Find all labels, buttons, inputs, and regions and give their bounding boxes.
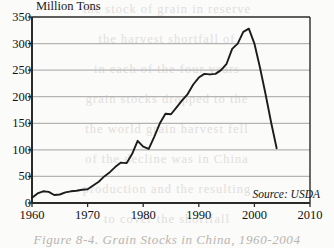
x-tick-label: 2010 [298, 208, 323, 223]
x-tick-label: 1990 [186, 208, 211, 223]
data-series-line [32, 29, 277, 198]
y-tick-label: 50 [1, 169, 31, 184]
y-tick-label: 200 [1, 89, 31, 104]
x-tick-label: 1960 [20, 208, 45, 223]
y-tick-label: 350 [1, 10, 31, 25]
y-tick-label: 300 [1, 36, 31, 51]
figure-caption: Figure 8-4. Grain Stocks in China, 1960-… [0, 232, 334, 248]
x-tick-label: 2000 [242, 208, 267, 223]
x-tick-label: 1980 [131, 208, 156, 223]
y-tick-label: 250 [1, 63, 31, 78]
y-tick-label: 150 [1, 116, 31, 131]
x-tick-label: 1970 [75, 208, 100, 223]
y-tick-label: 100 [1, 142, 31, 157]
source-note: Source: USDA [252, 188, 320, 200]
